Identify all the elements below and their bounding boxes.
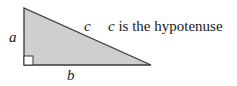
- right-triangle: [24, 8, 151, 65]
- hypotenuse-caption: c is the hypotenuse: [108, 19, 223, 34]
- triangle-figure: [0, 0, 237, 86]
- caption-variable: c: [108, 18, 115, 34]
- label-c: c: [84, 19, 91, 34]
- label-b: b: [67, 68, 75, 83]
- right-angle-marker: [24, 56, 33, 65]
- label-a: a: [9, 30, 17, 45]
- caption-text: is the hypotenuse: [115, 18, 223, 34]
